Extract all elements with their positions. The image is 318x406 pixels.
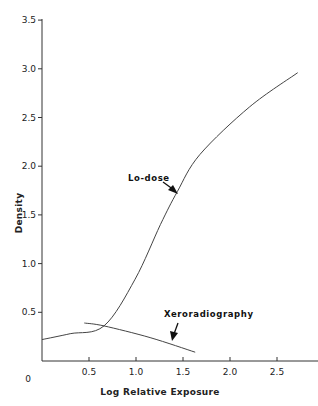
y-axis-title: Density — [14, 193, 24, 234]
y-tick-label: 0.5 — [22, 307, 36, 317]
y-ticks: 0.51.01.52.02.53.03.5 — [22, 15, 42, 317]
y-tick-label: 3.0 — [22, 64, 37, 74]
x-axis-title: Log Relative Exposure — [100, 387, 219, 397]
x-tick-label: 1.0 — [129, 367, 144, 377]
x-tick-label: 1.5 — [176, 367, 190, 377]
y-tick-label: 2.0 — [22, 161, 37, 171]
lodose-annotation: Lo-dose — [128, 173, 170, 183]
series-line-lo-dose — [42, 73, 298, 340]
origin-label: 0 — [25, 374, 31, 384]
chart: 0.51.01.52.02.53.03.5 0.51.01.52.02.5 0 … — [0, 0, 318, 406]
xero-annotation: Xeroradiography — [164, 309, 254, 319]
y-tick-label: 2.5 — [22, 113, 36, 123]
lodose-arrow-icon — [163, 182, 178, 194]
x-ticks: 0.51.01.52.02.5 — [82, 357, 284, 377]
y-tick-label: 1.0 — [22, 259, 37, 269]
series-line-xeroradiography — [84, 323, 195, 352]
xero-arrow-icon — [170, 323, 178, 341]
x-tick-label: 2.0 — [223, 367, 238, 377]
y-tick-label: 3.5 — [22, 15, 36, 25]
x-tick-label: 0.5 — [82, 367, 96, 377]
x-tick-label: 2.5 — [270, 367, 284, 377]
